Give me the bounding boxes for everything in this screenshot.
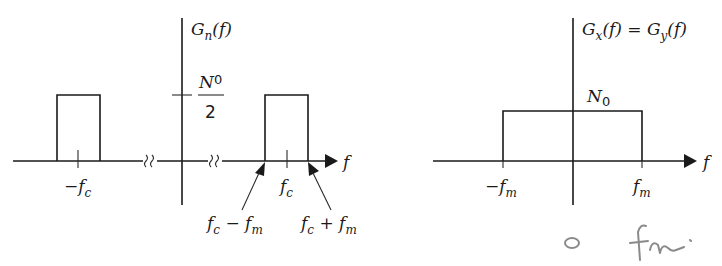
tick-label-neg-fm: −fm [485, 176, 517, 200]
level-numerator: N0 [198, 72, 222, 92]
right-f-axis-label: f [701, 152, 712, 172]
handwritten-zero [565, 238, 579, 248]
tick-label-fm: fm [631, 176, 651, 200]
right-plot-title: Gx(f) = Gy(f) [582, 19, 687, 43]
f-axis-arrow-icon [684, 154, 697, 168]
right-psd-plot: Gx(f) = Gy(f) N0 f −fm fm [433, 18, 712, 205]
left-psd-plot: Gn(f) N0 2 f −fc fc fc − fm fc + fm [13, 18, 357, 237]
pointer-arrow-icon [255, 162, 265, 176]
label-fc-plus-fm: fc + fm [299, 213, 357, 237]
level-n0: N0 [586, 86, 610, 109]
left-plot-title: Gn(f) [191, 19, 232, 43]
f-axis-arrow-icon [325, 154, 338, 168]
tick-label-fc: fc [278, 176, 293, 200]
axis-break-icon [210, 155, 213, 167]
diagram-canvas: Gn(f) N0 2 f −fc fc fc − fm fc + fm Gx(f… [0, 0, 722, 266]
axis-break-icon [145, 155, 148, 167]
level-denominator: 2 [205, 102, 216, 122]
tick-label-neg-fc: −fc [64, 176, 92, 200]
handwritten-note [565, 226, 691, 260]
axis-break-icon [151, 155, 154, 167]
handwritten-fm [630, 226, 691, 260]
pointer-line [242, 173, 259, 210]
left-f-axis-label: f [341, 152, 352, 172]
pointer-line [313, 173, 331, 210]
label-fc-minus-fm: fc − fm [205, 213, 263, 237]
axis-break-icon [216, 155, 219, 167]
